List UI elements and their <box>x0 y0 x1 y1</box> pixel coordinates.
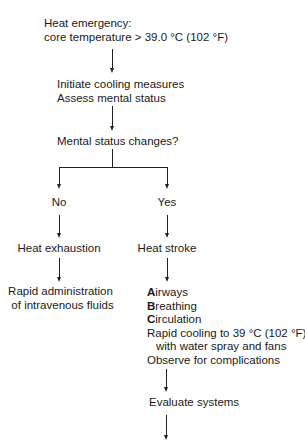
airways-rest: irways <box>155 286 188 298</box>
decision-node: Mental status changes? <box>57 135 178 149</box>
arrow-exhaustion-to-treatment <box>59 258 60 278</box>
arrow-start-to-step1 <box>112 49 113 69</box>
start-node-line2: core temperature > 39.0 °C (102 °F) <box>44 31 228 45</box>
abc-breathing: Breathing <box>147 300 197 314</box>
arrowhead-icon <box>165 184 169 189</box>
abc-circulation: Circulation <box>147 313 201 327</box>
arrowhead-icon <box>110 126 114 131</box>
heat-exhaustion-node: Heat exhaustion <box>9 242 109 256</box>
arrow-to-no <box>59 167 60 185</box>
start-node-line1: Heat emergency: <box>44 17 132 31</box>
arrowhead-icon <box>164 435 168 440</box>
arrow-yes-to-stroke <box>167 215 168 234</box>
branch-horizontal <box>59 167 167 168</box>
branch-no-label: No <box>39 196 79 210</box>
breathing-rest: reathing <box>155 300 197 312</box>
arrow-evaluate-continues <box>166 415 167 436</box>
evaluate-systems-node: Evaluate systems <box>149 396 239 410</box>
exhaustion-treatment-line1: Rapid administration <box>0 285 121 299</box>
abc-airways: Airways <box>147 286 188 300</box>
arrow-no-to-exhaustion <box>59 215 60 234</box>
arrowhead-icon <box>57 184 61 189</box>
arrowhead-icon <box>110 68 114 73</box>
arrow-step1-to-decision <box>112 106 113 127</box>
heat-stroke-node: Heat stroke <box>117 242 217 256</box>
circulation-rest: irculation <box>155 313 201 325</box>
cooling-line1: Rapid cooling to 39 °C (102 °F) <box>147 327 305 341</box>
step1-line2: Assess mental status <box>57 92 166 106</box>
arrowhead-icon <box>165 233 169 238</box>
branch-stem <box>112 149 113 167</box>
arrowhead-icon <box>165 277 169 282</box>
arrow-stroke-to-treatment <box>167 258 168 278</box>
arrow-treatment-to-evaluate <box>166 369 167 388</box>
arrowhead-icon <box>57 277 61 282</box>
branch-yes-label: Yes <box>147 196 187 210</box>
cooling-line2: with water spray and fans <box>156 340 286 354</box>
exhaustion-treatment-line2: of intravenous fluids <box>2 299 123 313</box>
arrowhead-icon <box>164 387 168 392</box>
arrow-to-yes <box>167 167 168 185</box>
step1-line1: Initiate cooling measures <box>57 78 184 92</box>
observe-complications: Observe for complications <box>147 354 280 368</box>
arrowhead-icon <box>57 233 61 238</box>
